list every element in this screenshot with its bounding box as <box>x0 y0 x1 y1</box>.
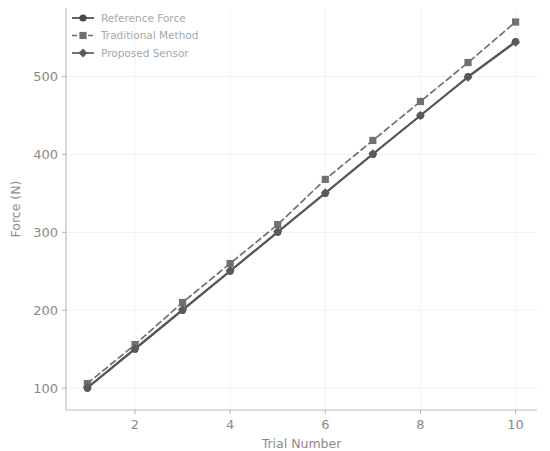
data-point-marker <box>512 18 519 25</box>
chart-legend: Reference ForceTraditional MethodPropose… <box>72 12 198 59</box>
y-tick-label: 500 <box>33 69 58 84</box>
legend-label: Proposed Sensor <box>101 47 189 59</box>
data-point-marker <box>369 137 376 144</box>
y-tick-label: 300 <box>33 225 58 240</box>
series-1 <box>84 38 519 392</box>
y-tick-label: 200 <box>33 303 58 318</box>
axis-tick-labels: 100200300400500246810 <box>33 69 524 432</box>
y-tick-label: 400 <box>33 147 58 162</box>
data-series <box>83 18 520 391</box>
series-line <box>87 42 515 387</box>
series-line <box>87 42 515 389</box>
x-tick-label: 8 <box>416 417 424 432</box>
legend-marker <box>79 49 88 58</box>
axis-ticks <box>62 77 516 414</box>
x-tick-label: 10 <box>507 417 524 432</box>
data-point-marker <box>417 98 424 105</box>
y-tick-label: 100 <box>33 381 58 396</box>
legend-marker <box>79 14 86 21</box>
chart-figure: 100200300400500246810 Force (N) Trial Nu… <box>0 0 550 451</box>
legend-label: Reference Force <box>101 12 186 24</box>
line-chart: 100200300400500246810 Force (N) Trial Nu… <box>0 0 550 451</box>
x-tick-label: 6 <box>321 417 329 432</box>
x-tick-label: 2 <box>131 417 139 432</box>
legend-marker <box>79 32 86 39</box>
series-2 <box>84 18 519 387</box>
data-point-marker <box>322 176 329 183</box>
legend-label: Traditional Method <box>100 29 198 41</box>
x-tick-label: 4 <box>226 417 234 432</box>
x-axis-title: Trial Number <box>261 436 343 451</box>
y-axis-title: Force (N) <box>8 181 23 238</box>
data-point-marker <box>464 59 471 66</box>
